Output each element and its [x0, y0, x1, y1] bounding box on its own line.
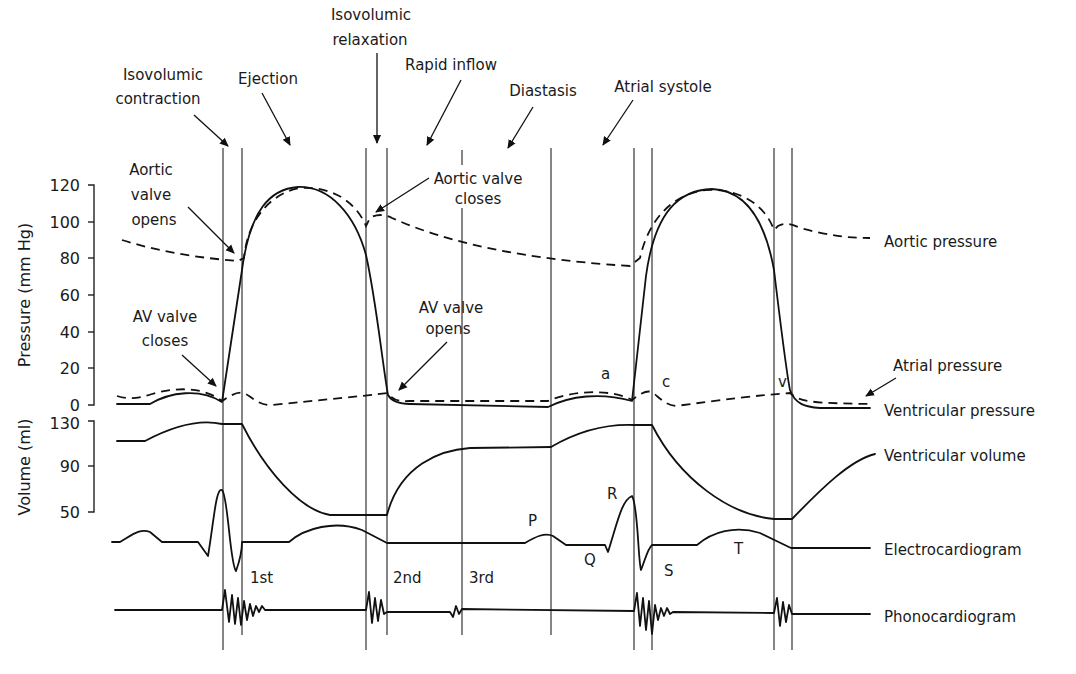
ecg-label-P: P	[528, 512, 537, 530]
wave-label-v: v	[778, 373, 787, 391]
event-label-aortic-valve-opens: Aortic valve opens	[129, 161, 234, 253]
atrial-pressure-trace	[117, 389, 870, 406]
event-label-aortic-valve-closes: Aortic valve closes	[376, 170, 522, 212]
svg-text:60: 60	[60, 286, 80, 305]
phase-label-diastasis: Diastasis	[508, 82, 577, 148]
ecg-label-Q: Q	[584, 551, 596, 569]
svg-text:closes: closes	[142, 332, 189, 350]
electrocardiogram-trace	[112, 490, 870, 571]
heart-sound-label-1st: 1st	[250, 569, 273, 587]
svg-text:AV valve: AV valve	[419, 299, 484, 317]
svg-text:130: 130	[49, 414, 80, 433]
svg-text:opens: opens	[425, 320, 470, 338]
arrow-icon	[262, 93, 290, 145]
svg-text:50: 50	[60, 503, 80, 522]
event-label-av-valve-closes: AV valve closes	[133, 308, 216, 386]
svg-text:Ejection: Ejection	[238, 70, 298, 88]
svg-text:90: 90	[60, 457, 80, 476]
pressure-axis-title: Pressure (mm Hg)	[15, 223, 34, 367]
svg-text:opens: opens	[131, 211, 176, 229]
svg-text:Rapid inflow: Rapid inflow	[405, 56, 497, 74]
phase-label-isovolumic-relaxation: Isovolumic relaxation	[331, 6, 411, 143]
svg-text:40: 40	[60, 323, 80, 342]
trace-label-atrial-pressure-group: Atrial pressure	[866, 357, 1002, 396]
trace-label-aortic-pressure: Aortic pressure	[884, 233, 997, 251]
arrow-icon	[376, 178, 429, 212]
svg-text:Atrial systole: Atrial systole	[614, 78, 711, 96]
phase-label-ejection: Ejection	[238, 70, 298, 145]
wiggers-diagram: Isovolumic contraction Ejection Isovolum…	[0, 0, 1076, 674]
svg-text:120: 120	[49, 176, 80, 195]
svg-text:Atrial pressure: Atrial pressure	[893, 357, 1002, 375]
svg-text:Diastasis: Diastasis	[509, 82, 577, 100]
phase-label-rapid-inflow: Rapid inflow	[405, 56, 497, 145]
arrow-icon	[866, 378, 896, 396]
phase-label-atrial-systole: Atrial systole	[603, 78, 712, 145]
ecg-label-R: R	[607, 485, 617, 503]
ventricular-volume-trace	[117, 422, 875, 519]
svg-text:0: 0	[70, 396, 80, 415]
phase-label-isovolumic-contraction: Isovolumic contraction	[115, 66, 228, 146]
trace-label-phonocardiogram: Phonocardiogram	[884, 608, 1016, 626]
svg-text:100: 100	[49, 213, 80, 232]
arrow-icon	[603, 100, 633, 145]
svg-text:valve: valve	[131, 186, 171, 204]
arrow-icon	[508, 107, 533, 148]
arrow-icon	[194, 115, 228, 146]
svg-text:relaxation: relaxation	[332, 31, 407, 49]
wave-label-a: a	[601, 365, 610, 383]
arrow-icon	[399, 342, 447, 390]
svg-text:Isovolumic: Isovolumic	[123, 66, 203, 84]
trace-label-electrocardiogram: Electrocardiogram	[884, 541, 1022, 559]
svg-text:80: 80	[60, 249, 80, 268]
event-label-av-valve-opens: AV valve opens	[399, 299, 483, 390]
wave-label-c: c	[662, 373, 670, 391]
trace-label-ventricular-volume: Ventricular volume	[884, 447, 1026, 465]
arrow-icon	[188, 207, 234, 253]
phonocardiogram-trace	[115, 590, 870, 634]
trace-label-ventricular-pressure: Ventricular pressure	[884, 402, 1035, 420]
svg-text:contraction: contraction	[115, 90, 200, 108]
volume-axis: 130 90 50 Volume (ml)	[15, 414, 94, 522]
heart-sound-label-2nd: 2nd	[393, 569, 422, 587]
volume-axis-title: Volume (ml)	[15, 418, 34, 515]
phase-divider-lines	[223, 148, 792, 650]
heart-sound-label-3rd: 3rd	[469, 569, 494, 587]
pressure-axis: 120 100 80 60 40 20 0 Pressure (mm Hg)	[15, 176, 94, 415]
svg-text:AV valve: AV valve	[133, 308, 198, 326]
arrow-icon	[427, 80, 461, 145]
svg-text:Isovolumic: Isovolumic	[331, 6, 411, 24]
svg-text:Aortic valve: Aortic valve	[434, 170, 523, 188]
svg-text:Aortic: Aortic	[129, 161, 173, 179]
arrow-icon	[182, 355, 216, 386]
svg-text:20: 20	[60, 359, 80, 378]
svg-text:closes: closes	[455, 190, 502, 208]
ecg-label-S: S	[664, 562, 674, 580]
ventricular-pressure-trace	[117, 187, 870, 408]
ecg-label-T: T	[733, 540, 744, 558]
